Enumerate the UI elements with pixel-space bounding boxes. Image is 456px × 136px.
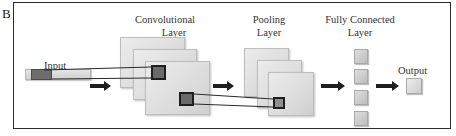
receptive-field-line-bottom — [52, 78, 151, 79]
pool-line-top — [194, 94, 273, 99]
arrow-right-icon-2 — [213, 81, 234, 91]
arrow-right-icon-4 — [376, 81, 399, 91]
arrow-right-icon-3 — [321, 81, 345, 91]
connectors-layer — [0, 0, 456, 136]
arrow-icons — [90, 81, 399, 91]
arrow-right-icon-1 — [90, 81, 111, 91]
pool-line-bottom — [194, 104, 273, 107]
receptive-field-line-top — [44, 67, 151, 70]
